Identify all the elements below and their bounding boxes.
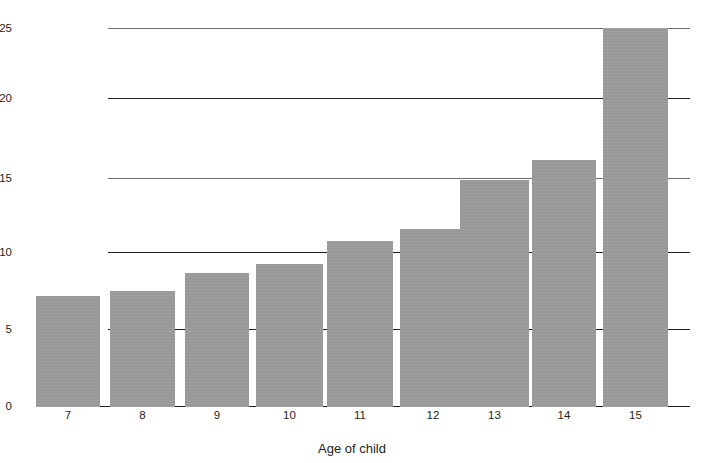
ytick-label-10: 10 <box>0 247 12 259</box>
xtick-label-15: 15 <box>603 409 668 421</box>
ytick-label-15: 15 <box>0 173 12 185</box>
bar-chart-figure: 25 20 15 10 5 0 7 8 9 10 11 12 13 14 15 … <box>0 0 704 463</box>
xtick-label-13: 13 <box>460 409 529 421</box>
xtick-label-7: 7 <box>36 409 100 421</box>
bar-age-7 <box>36 296 100 407</box>
bar-age-10 <box>256 264 323 407</box>
bar-age-11 <box>327 241 393 407</box>
bar-age-13 <box>460 180 529 407</box>
xtick-label-14: 14 <box>532 409 596 421</box>
x-axis-title: Age of child <box>0 441 704 456</box>
bar-age-15 <box>603 28 668 407</box>
bar-age-12 <box>400 229 466 407</box>
bar-age-14 <box>532 160 596 407</box>
ytick-label-25: 25 <box>0 23 12 35</box>
ytick-label-5: 5 <box>0 324 12 336</box>
bar-age-9 <box>185 273 249 407</box>
plot-area: 25 20 15 10 5 0 7 8 9 10 11 12 13 14 15 … <box>0 0 704 463</box>
xtick-label-10: 10 <box>256 409 323 421</box>
bar-age-8 <box>110 291 175 407</box>
xtick-label-8: 8 <box>110 409 175 421</box>
xtick-label-12: 12 <box>400 409 466 421</box>
ytick-label-20: 20 <box>0 93 12 105</box>
xtick-label-11: 11 <box>327 409 393 421</box>
ytick-label-0: 0 <box>0 401 12 413</box>
xtick-label-9: 9 <box>185 409 249 421</box>
